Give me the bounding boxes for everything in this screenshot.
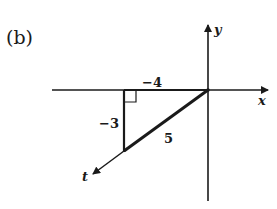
t-axis-label: t: [82, 169, 88, 184]
t-axis: [93, 151, 124, 174]
origin-point: [206, 88, 210, 92]
x-axis-label: x: [257, 93, 266, 108]
right-angle-marker: [124, 90, 136, 102]
y-axis-label: y: [213, 22, 223, 37]
hypotenuse-label: 5: [164, 131, 173, 146]
diagram-canvas: (b) y x t −4 −3 5: [0, 0, 277, 209]
panel-label: (b): [6, 26, 33, 48]
horizontal-leg-label: −4: [142, 75, 162, 90]
coordinate-diagram: (b) y x t −4 −3 5: [0, 0, 277, 209]
vertical-leg-label: −3: [99, 116, 119, 131]
